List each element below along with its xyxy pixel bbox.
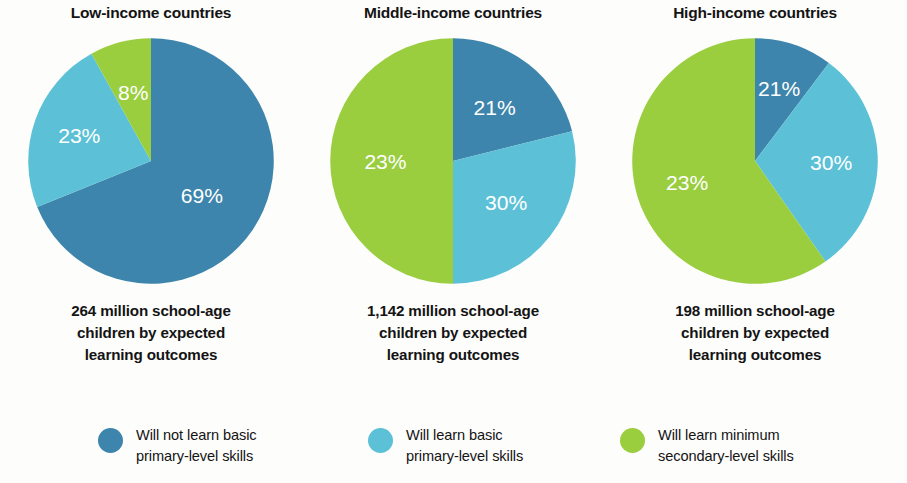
caption-line-1: 198 million school-age <box>610 300 900 322</box>
pie-svg: 21%30%23% <box>631 37 879 285</box>
pie-slice-label: 30% <box>810 151 852 174</box>
caption-line-3: learning outcomes <box>308 344 598 366</box>
panel-low-income: Low-income countries 69%23%8% 264 millio… <box>0 0 302 400</box>
legend-swatch-icon <box>368 428 393 453</box>
legend-label-line-1: Will learn basic <box>406 425 523 446</box>
panel-caption: 198 million school-age children by expec… <box>610 300 900 366</box>
legend-label-line-2: primary-level skills <box>136 446 256 467</box>
panel-caption: 264 million school-age children by expec… <box>6 300 296 366</box>
legend-label-line-1: Will not learn basic <box>136 425 256 446</box>
pie-chart-low-income: 69%23%8% <box>27 37 275 285</box>
caption-line-2: children by expected <box>6 322 296 344</box>
pie-slice-label: 23% <box>364 150 406 173</box>
pie-slice-label: 21% <box>473 96 515 119</box>
legend-swatch-icon <box>98 428 123 453</box>
caption-line-1: 1,142 million school-age <box>308 300 598 322</box>
panel-title: Low-income countries <box>0 4 302 22</box>
caption-line-2: children by expected <box>308 322 598 344</box>
legend-label-line-1: Will learn minimum <box>658 425 794 446</box>
legend-label: Will learn minimum secondary-level skill… <box>658 425 794 466</box>
caption-line-3: learning outcomes <box>610 344 900 366</box>
learning-outcomes-pie-figure: Low-income countries 69%23%8% 264 millio… <box>0 0 907 483</box>
caption-line-2: children by expected <box>610 322 900 344</box>
pie-svg: 69%23%8% <box>27 37 275 285</box>
pie-slice-label: 69% <box>181 184 223 207</box>
legend-label: Will learn basic primary-level skills <box>406 425 523 466</box>
panel-caption: 1,142 million school-age children by exp… <box>308 300 598 366</box>
pie-slice-label: 30% <box>485 191 527 214</box>
legend-swatch-icon <box>620 428 645 453</box>
chart-legend: Will not learn basic primary-level skill… <box>0 425 907 483</box>
pie-slice-label: 23% <box>58 124 100 147</box>
legend-item: Will learn minimum secondary-level skill… <box>620 425 794 466</box>
panel-title: Middle-income countries <box>302 4 604 22</box>
legend-item: Will not learn basic primary-level skill… <box>98 425 256 466</box>
caption-line-1: 264 million school-age <box>6 300 296 322</box>
legend-label-line-2: secondary-level skills <box>658 446 794 467</box>
legend-label-line-2: primary-level skills <box>406 446 523 467</box>
pie-slice-label: 23% <box>666 171 708 194</box>
panel-title: High-income countries <box>604 4 906 22</box>
pie-chart-high-income: 21%30%23% <box>631 37 879 285</box>
panel-middle-income: Middle-income countries 21%30%23% 1,142 … <box>302 0 604 400</box>
legend-label: Will not learn basic primary-level skill… <box>136 425 256 466</box>
pie-chart-middle-income: 21%30%23% <box>329 37 577 285</box>
pie-slice-label: 21% <box>758 77 800 100</box>
panel-high-income: High-income countries 21%30%23% 198 mill… <box>604 0 906 400</box>
pie-slice-label: 8% <box>118 81 148 104</box>
caption-line-3: learning outcomes <box>6 344 296 366</box>
legend-item: Will learn basic primary-level skills <box>368 425 523 466</box>
pie-svg: 21%30%23% <box>329 37 577 285</box>
